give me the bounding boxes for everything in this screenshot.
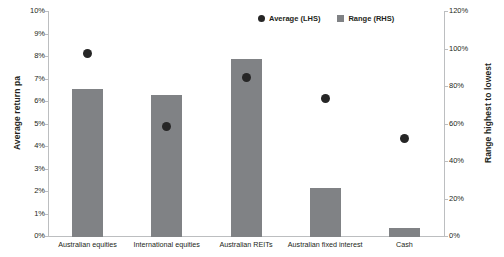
- y-axis-left-tick-label: 5%: [5, 120, 45, 128]
- y-axis-left-tick-label: 7%: [5, 75, 45, 83]
- y-axis-left-tick-label: 2%: [5, 187, 45, 195]
- legend-label-average: Average (LHS): [269, 14, 320, 23]
- legend-label-range: Range (RHS): [348, 14, 394, 23]
- legend-item-range: Range (RHS): [337, 14, 394, 23]
- y-axis-left-ticks: 0%1%2%3%4%5%6%7%8%9%10%: [0, 0, 45, 257]
- plot-area: [48, 11, 444, 237]
- circle-marker-icon: [258, 15, 265, 22]
- x-axis-tick-label: Australian equities: [48, 241, 127, 249]
- x-axis-tick-label: Australian fixed interest: [286, 241, 365, 249]
- y-axis-right-tick-mark: [445, 199, 448, 200]
- y-axis-left-tick-label: 9%: [5, 30, 45, 38]
- y-axis-right-tick-label: 0%: [449, 232, 489, 240]
- x-axis-tick-label: Australian REITs: [206, 241, 285, 249]
- dot-average: [83, 49, 92, 58]
- y-axis-right-tick-label: 40%: [449, 157, 489, 165]
- y-axis-right-tick-label: 80%: [449, 82, 489, 90]
- y-axis-right-ticks: 0%20%40%60%80%100%120%: [449, 0, 504, 257]
- y-axis-right-tick-label: 60%: [449, 120, 489, 128]
- y-axis-left-tick-label: 3%: [5, 165, 45, 173]
- dot-average: [321, 94, 330, 103]
- x-axis-tick-label: International equities: [127, 241, 206, 249]
- chart-legend: Average (LHS) Range (RHS): [258, 14, 394, 23]
- y-axis-right-tick-mark: [445, 161, 448, 162]
- y-axis-right-tick-mark: [445, 86, 448, 87]
- y-axis-left-tick-label: 4%: [5, 142, 45, 150]
- y-axis-left-tick-label: 8%: [5, 52, 45, 60]
- bar-range: [231, 59, 262, 237]
- y-axis-right-tick-label: 100%: [449, 45, 489, 53]
- dot-average: [400, 134, 409, 143]
- y-axis-right-tick-mark: [445, 236, 448, 237]
- y-axis-left-tick-label: 10%: [5, 7, 45, 15]
- chart-container: Average return pa Range highest to lowes…: [0, 0, 504, 257]
- y-axis-right-tick-mark: [445, 11, 448, 12]
- bar-range: [72, 89, 103, 237]
- bar-range: [389, 228, 420, 237]
- y-axis-left-tick-label: 0%: [5, 232, 45, 240]
- y-axis-left-tick-label: 6%: [5, 97, 45, 105]
- y-axis-right-tick-mark: [445, 124, 448, 125]
- y-axis-right-tick-mark: [445, 49, 448, 50]
- square-marker-icon: [337, 15, 344, 22]
- bar-range: [151, 95, 182, 238]
- y-axis-left-tick-label: 1%: [5, 210, 45, 218]
- y-axis-right-tick-label: 20%: [449, 195, 489, 203]
- legend-item-average: Average (LHS): [258, 14, 320, 23]
- y-axis-right-tick-label: 120%: [449, 7, 489, 15]
- dot-average: [242, 73, 251, 82]
- bar-range: [310, 188, 341, 237]
- x-axis-tick-label: Cash: [365, 241, 444, 249]
